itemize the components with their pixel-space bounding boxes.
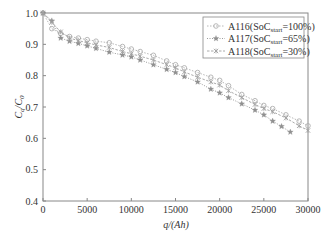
y-tick-label: 0.9	[26, 39, 39, 50]
data-point-star	[252, 107, 258, 112]
y-tick-label: 0.7	[26, 102, 39, 113]
y-tick-label: 0.8	[26, 70, 39, 81]
data-point-cross	[217, 83, 221, 88]
data-point-cross	[297, 123, 301, 128]
x-axis-label-text: q/(Ah)	[163, 219, 189, 231]
x-tick-label: 15000	[163, 204, 188, 215]
chart: 050001000015000200002500030000 0.40.50.6…	[0, 0, 333, 241]
data-point-cross	[306, 128, 310, 133]
x-tick-label: 10000	[119, 204, 144, 215]
y-tick-label: 0.5	[26, 164, 39, 175]
y-tick-label: 0.4	[26, 196, 39, 207]
data-point-circle	[50, 26, 55, 31]
data-point-circle	[209, 75, 214, 80]
data-point-circle	[195, 70, 200, 75]
y-axis-label-text: Cq/C0	[13, 95, 26, 119]
data-point-cross	[226, 88, 230, 93]
x-tick-label: 5000	[77, 204, 97, 215]
data-point-cross	[209, 79, 213, 84]
data-point-star	[226, 95, 232, 100]
data-point-cross	[253, 102, 257, 107]
data-point-circle	[217, 78, 222, 83]
data-point-circle	[297, 119, 302, 124]
x-tick-label: 25000	[251, 204, 276, 215]
data-point-cross	[164, 62, 168, 67]
data-point-star	[181, 74, 187, 79]
data-point-cross	[107, 45, 111, 50]
legend: A116(SoCstart=100%)A117(SoCstart=65%)A11…	[203, 17, 315, 59]
data-point-cross	[182, 69, 186, 74]
data-point-star	[287, 129, 293, 134]
x-tick-label: 30000	[296, 204, 321, 215]
data-point-star	[151, 62, 157, 67]
data-point-star	[58, 35, 64, 40]
data-point-cross	[195, 75, 199, 80]
data-point-star	[261, 112, 267, 117]
data-point-star	[164, 66, 170, 71]
y-tick-label: 0.6	[26, 133, 39, 144]
data-point-cross	[270, 109, 274, 114]
y-axis-label: Cq/C0	[13, 95, 26, 119]
data-point-cross	[173, 65, 177, 70]
data-point-star	[173, 70, 179, 75]
x-axis-label: q/(Ah)	[163, 219, 189, 231]
data-point-star	[195, 79, 201, 84]
data-point-cross	[240, 95, 244, 100]
data-point-cross	[262, 106, 266, 111]
x-tick-label: 0	[41, 204, 46, 215]
data-point-star	[239, 101, 245, 106]
data-point-star	[106, 49, 112, 54]
x-tick-label: 20000	[207, 204, 232, 215]
data-point-star	[217, 90, 223, 95]
data-point-star	[208, 86, 214, 91]
y-tick-label: 1.0	[26, 8, 39, 19]
data-point-cross	[284, 115, 288, 120]
